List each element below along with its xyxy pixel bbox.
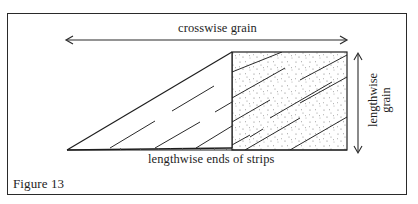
- lengthwise-grain-label: lengthwise grain: [362, 60, 398, 140]
- lengthwise-grain-label-line2: grain: [380, 73, 393, 127]
- fabric-rectangle: [232, 52, 347, 150]
- crosswise-grain-arrow: [66, 36, 347, 44]
- figure-caption: Figure 13: [13, 176, 64, 192]
- lengthwise-grain-arrow: [354, 53, 362, 153]
- crosswise-grain-label: crosswise grain: [178, 21, 257, 36]
- lengthwise-ends-label: lengthwise ends of strips: [148, 152, 274, 167]
